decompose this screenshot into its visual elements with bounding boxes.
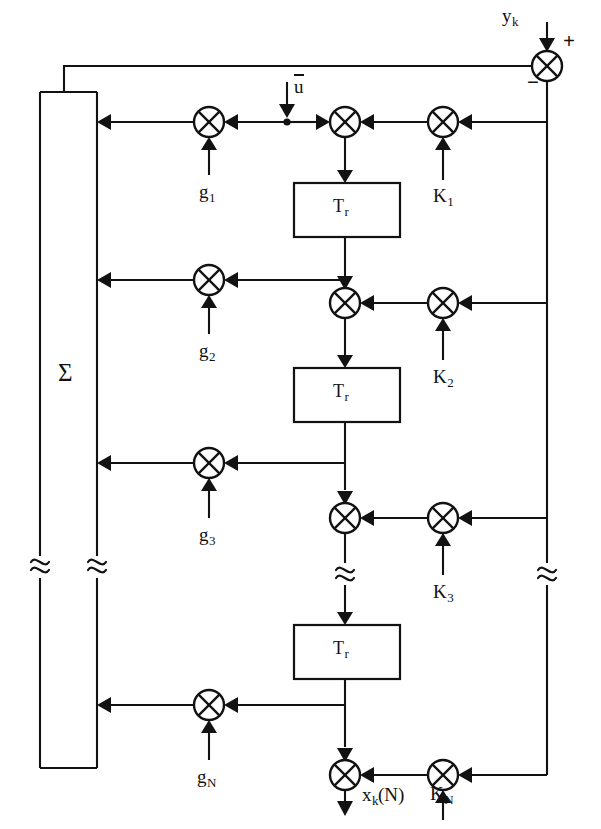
label-feedback-k3: K3 — [433, 582, 453, 601]
junction-row-1 — [330, 107, 360, 137]
label-gain-gn: gN — [197, 767, 216, 786]
diagram-canvas — [0, 0, 601, 829]
row-1 — [97, 82, 547, 183]
label-feedback-k1: K1 — [433, 186, 453, 205]
feedback-path-top — [64, 58, 547, 92]
multiplier-g1 — [194, 107, 224, 137]
label-delay-block-1: Tr — [333, 197, 348, 215]
right-bus — [538, 81, 556, 775]
label-feedback-k2: K2 — [433, 367, 453, 386]
label-output-xkn: xk(N) — [362, 785, 404, 804]
label-plus-sign: + — [563, 31, 575, 52]
row-3 — [97, 422, 547, 625]
label-gain-g2: g2 — [199, 341, 215, 360]
row-n — [97, 679, 547, 820]
multiplier-k1 — [428, 107, 458, 137]
input-yk-arrow — [539, 22, 555, 52]
label-feedback-kn: KN — [430, 784, 453, 803]
label-summation-sigma: Σ — [58, 360, 73, 385]
row-2 — [97, 237, 547, 368]
summation-block — [31, 92, 106, 768]
multiplier-k3 — [428, 503, 458, 533]
multiplier-g3 — [194, 448, 224, 478]
label-delay-block-3: Tr — [333, 639, 348, 657]
multiplier-gn — [194, 690, 224, 720]
label-gain-g3: g3 — [199, 525, 215, 544]
block-diagram: yk + − u Σ Tr Tr Tr g1 g2 g3 gN K1 K2 K3… — [0, 0, 601, 829]
label-input-yk: yk — [502, 6, 518, 25]
multiplier-k2 — [428, 288, 458, 318]
junction-row-2 — [330, 288, 360, 318]
junction-row-3 — [330, 503, 360, 533]
label-control-ubar: u — [294, 74, 304, 96]
label-delay-block-2: Tr — [333, 382, 348, 400]
label-minus-sign: − — [527, 72, 539, 93]
junction-row-n — [330, 760, 360, 790]
multiplier-g2 — [194, 265, 224, 295]
label-gain-g1: g1 — [199, 182, 215, 201]
